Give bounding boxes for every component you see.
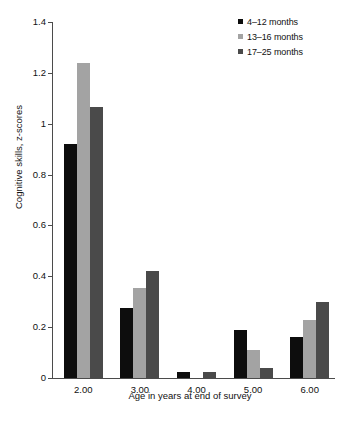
bar xyxy=(234,330,247,378)
plot-area: 00.20.40.60.811.21.4 2.003.004.005.006.0… xyxy=(52,22,335,378)
bar xyxy=(290,337,303,378)
y-axis-tick xyxy=(48,73,52,74)
bar xyxy=(120,308,133,378)
bar xyxy=(90,107,103,378)
y-axis-tick xyxy=(48,124,52,125)
bar-chart-figure: 4–12 months13–16 months17–25 months 00.2… xyxy=(0,0,354,433)
x-axis-title: Age in years at end of survey xyxy=(40,390,340,402)
bar xyxy=(64,144,77,378)
y-axis-tick-label: 0 xyxy=(0,373,46,383)
bar xyxy=(133,288,146,378)
bar xyxy=(177,372,190,378)
bar xyxy=(146,271,159,378)
y-axis-tick xyxy=(48,225,52,226)
y-axis-tick xyxy=(48,276,52,277)
x-axis-line xyxy=(52,378,335,379)
bar xyxy=(77,63,90,378)
y-axis-tick xyxy=(48,22,52,23)
y-axis-tick-label: 0.2 xyxy=(0,322,46,332)
y-axis-tick-label: 1.4 xyxy=(0,17,46,27)
y-axis-tick xyxy=(48,378,52,379)
bar xyxy=(247,350,260,378)
y-axis-tick xyxy=(48,175,52,176)
y-axis-tick xyxy=(48,327,52,328)
bar xyxy=(316,302,329,378)
bar xyxy=(260,368,273,378)
y-axis-title: Cognitive skills, z-scores xyxy=(12,27,26,287)
bar xyxy=(203,372,216,378)
bar xyxy=(303,320,316,378)
y-axis-line xyxy=(52,22,53,378)
